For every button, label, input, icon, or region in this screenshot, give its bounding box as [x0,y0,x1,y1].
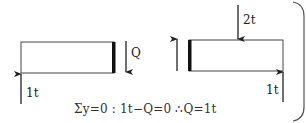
equilibrium-equation: Σy=0 : 1t−Q=0 ∴Q=1t [74,102,217,116]
shear-q-label: Q [131,47,141,59]
right-reaction-label: 1t [266,84,278,96]
left-reaction-label: 1t [26,87,38,99]
right-beam [189,40,283,71]
left-beam-cut-face [112,42,116,73]
left-beam [21,42,114,73]
right-beam-cut-face [188,40,192,71]
frame-border [293,2,304,121]
point-load-label: 2t [243,14,255,26]
